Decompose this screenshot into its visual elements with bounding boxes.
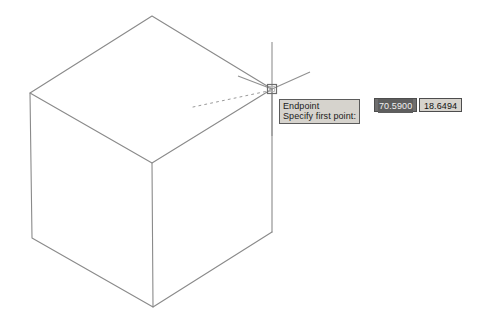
crosshair-pickbox-arm-right bbox=[272, 72, 310, 89]
dynamic-input-x-value: 70.5900 bbox=[378, 99, 413, 113]
osnap-type-label: Endpoint bbox=[283, 101, 356, 111]
box-top-face[interactable] bbox=[30, 16, 272, 163]
box-bottom-right-edge[interactable] bbox=[153, 232, 272, 307]
drawing-canvas[interactable] bbox=[0, 0, 488, 324]
cad-drawing-area[interactable]: Endpoint Specify first point: 70.5900 18… bbox=[0, 0, 488, 324]
dynamic-input-y-value: 18.6494 bbox=[424, 101, 457, 111]
osnap-tooltip: Endpoint Specify first point: bbox=[279, 99, 360, 124]
dynamic-input-y-field[interactable]: 18.6494 bbox=[419, 98, 462, 112]
isometric-box[interactable] bbox=[30, 16, 272, 307]
command-prompt-label: Specify first point: bbox=[283, 111, 356, 121]
dynamic-input-x-field[interactable]: 70.5900 bbox=[374, 98, 417, 112]
